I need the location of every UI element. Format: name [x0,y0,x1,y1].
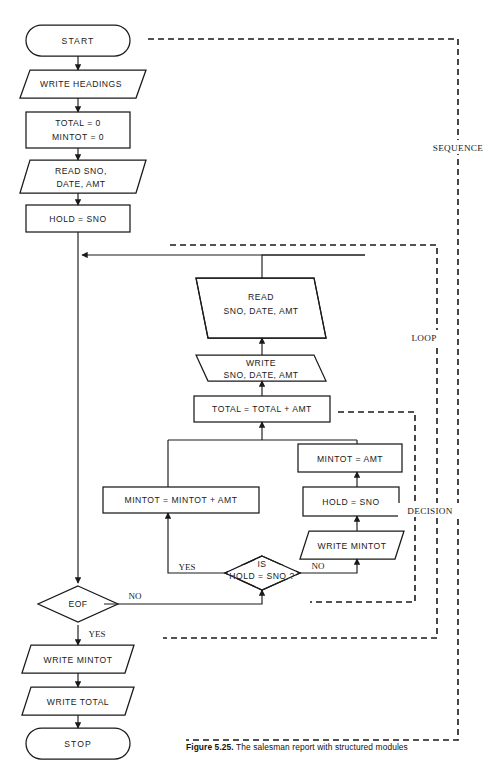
node-read-first[interactable]: READ SNO, DATE, AMT [20,160,146,193]
node-read-loop-line1: READ [248,292,274,302]
node-write-headings[interactable]: WRITE HEADINGS [20,70,146,98]
node-write-mintot-final-label: WRITE MINTOT [44,655,113,665]
decision-branch-connectors [104,472,357,604]
node-mintot-accum[interactable]: MINTOT = MINTOT + AMT [103,487,259,513]
module-label-sequence-text: SEQUENCE [433,143,483,153]
node-stop[interactable]: STOP [26,728,130,759]
module-label-loop: LOOP [404,330,444,344]
node-mintot-accum-label: MINTOT = MINTOT + AMT [124,495,237,505]
module-label-decision: DECISION [398,503,462,517]
node-mintot-reset[interactable]: MINTOT = AMT [298,444,402,472]
node-eof-decision-label: EOF [68,599,87,609]
node-init-totals[interactable]: TOTAL = 0 MINTOT = 0 [26,112,130,148]
node-write-loop-line2: SNO, DATE, AMT [223,370,298,380]
node-start-label: START [62,36,95,46]
node-read-first-line1: READ SNO, [55,166,107,176]
node-write-total-final-label: WRITE TOTAL [47,697,109,707]
node-write-headings-label: WRITE HEADINGS [40,79,122,89]
node-stop-label: STOP [64,739,92,749]
node-write-loop[interactable]: WRITE SNO, DATE, AMT [196,355,326,381]
node-total-accum-label: TOTAL = TOTAL + AMT [212,404,312,414]
branch-label-hold-no: NO [312,561,325,571]
node-write-mintot-final[interactable]: WRITE MINTOT [22,645,134,673]
module-label-decision-text: DECISION [407,506,452,516]
node-write-total-final[interactable]: WRITE TOTAL [22,687,134,715]
figure-caption: Figure 5.25. The salesman report with st… [186,741,500,753]
module-label-sequence: SEQUENCE [424,140,494,154]
figure-container: START WRITE HEADINGS TOTAL = 0 MINTOT = … [0,0,500,775]
node-read-loop-line2: SNO, DATE, AMT [223,306,298,316]
sequence-module-outline [148,39,458,740]
node-init-totals-line2: MINTOT = 0 [52,132,104,142]
node-read-first-line2: DATE, AMT [56,179,105,189]
branch-label-hold-yes: YES [178,562,195,572]
node-hold-decision[interactable]: IS HOLD = SNO ? [225,556,300,590]
branch-label-eof-no: NO [129,591,142,601]
node-start[interactable]: START [26,25,130,56]
node-hold-decision-line2: HOLD = SNO ? [229,571,294,581]
figure-caption-number: Figure 5.25. [186,742,234,752]
main-flow-connectors [78,56,365,728]
node-hold-sno-first-label: HOLD = SNO [49,214,106,224]
figure-caption-text: The salesman report with structured modu… [236,742,408,752]
node-hold-sno-reset-label: HOLD = SNO [322,497,379,507]
node-write-loop-line1: WRITE [246,358,276,368]
node-hold-decision-line1: IS [257,559,266,569]
node-init-totals-line1: TOTAL = 0 [55,118,101,128]
node-write-mintot-break[interactable]: WRITE MINTOT [300,531,404,559]
module-label-loop-text: LOOP [411,333,436,343]
node-total-accum[interactable]: TOTAL = TOTAL + AMT [194,396,330,422]
node-hold-sno-first[interactable]: HOLD = SNO [26,205,130,232]
node-read-loop[interactable]: READ SNO, DATE, AMT [196,278,326,338]
branch-label-eof-yes: YES [88,629,105,639]
node-mintot-reset-label: MINTOT = AMT [317,454,383,464]
flowchart-diagram: START WRITE HEADINGS TOTAL = 0 MINTOT = … [0,0,500,775]
node-write-mintot-break-label: WRITE MINTOT [318,541,387,551]
node-hold-sno-reset[interactable]: HOLD = SNO [303,487,399,516]
